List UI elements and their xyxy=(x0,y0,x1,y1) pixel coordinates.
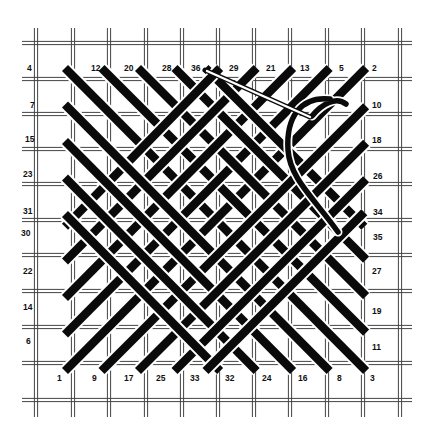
stitch-label-32: 32 xyxy=(225,373,235,383)
stitch-label-1: 1 xyxy=(57,373,62,383)
stitch-label-27: 27 xyxy=(372,266,382,276)
stitch-label-9: 9 xyxy=(92,373,97,383)
stitch-label-26: 26 xyxy=(373,171,383,181)
stitch-label-33: 33 xyxy=(190,373,200,383)
stitch-layer xyxy=(65,68,366,371)
stitch-label-35: 35 xyxy=(373,232,383,242)
stitch-label-11: 11 xyxy=(372,342,381,352)
stitch-label-20: 20 xyxy=(124,63,134,73)
stitch-label-6: 6 xyxy=(26,336,31,346)
stitch-label-28: 28 xyxy=(162,63,172,73)
stitch-label-24: 24 xyxy=(262,373,272,383)
stitch-label-12: 12 xyxy=(91,63,101,73)
stitch-label-3: 3 xyxy=(370,373,375,383)
stitch-label-23: 23 xyxy=(23,169,33,179)
stitch-label-30: 30 xyxy=(21,228,31,238)
stitch-label-22: 22 xyxy=(23,266,33,276)
stitch-label-13: 13 xyxy=(300,63,310,73)
stitch-diagram: 4122028362921135271523313022146191725333… xyxy=(0,0,434,444)
stitch-label-17: 17 xyxy=(124,373,134,383)
stitch-label-15: 15 xyxy=(25,134,35,144)
stitch-label-8: 8 xyxy=(337,373,342,383)
stitch-label-34: 34 xyxy=(373,207,383,217)
stitch-label-2: 2 xyxy=(372,63,377,73)
stitch-label-36: 36 xyxy=(191,63,201,73)
stitch-label-18: 18 xyxy=(372,135,382,145)
stitch-label-29: 29 xyxy=(229,63,239,73)
stitch-label-7: 7 xyxy=(30,100,35,110)
stitch-label-5: 5 xyxy=(339,63,344,73)
stitch-label-4: 4 xyxy=(27,63,32,73)
stitch-label-10: 10 xyxy=(372,100,382,110)
stitch-label-25: 25 xyxy=(156,373,166,383)
stitch-label-19: 19 xyxy=(372,306,382,316)
stitch-label-16: 16 xyxy=(298,373,308,383)
stitch-label-14: 14 xyxy=(23,302,33,312)
stitch-label-21: 21 xyxy=(266,63,276,73)
stitch-label-31: 31 xyxy=(23,206,33,216)
